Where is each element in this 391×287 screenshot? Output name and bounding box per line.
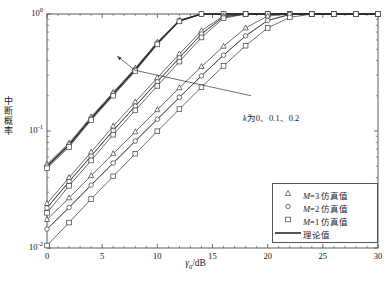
legend-label: 理论值: [303, 228, 330, 240]
x-tick-label: 20: [256, 251, 280, 261]
x-tick-label: 30: [366, 251, 390, 261]
y-tick-mantissa: 10: [31, 8, 40, 18]
x-tick-label: 5: [90, 251, 114, 261]
x-tick-label: 25: [311, 251, 335, 261]
legend-marker-square: [273, 214, 303, 227]
y-tick-exponent: -1: [38, 123, 43, 130]
legend-text: 理论值: [303, 230, 330, 240]
legend-text: =2 仿真值: [310, 204, 348, 214]
y-axis-label-char: 中: [2, 96, 14, 106]
legend-text: =1 仿真值: [310, 217, 348, 227]
x-tick-label: 0: [35, 251, 59, 261]
legend-marker-triangle: [273, 188, 303, 201]
y-tick-mantissa: 10: [29, 125, 38, 135]
chart-figure: 中断概率 γ0/dB k为0、0.1、0.2 M=3 仿真值M=2 仿真值M=1…: [0, 0, 391, 287]
chart-legend: M=3 仿真值M=2 仿真值M=1 仿真值理论值: [272, 183, 378, 243]
y-tick-exponent: 0: [40, 6, 43, 13]
legend-item: M=1 仿真值: [273, 214, 377, 227]
k-annotation: k为0、0.1、0.2: [243, 111, 299, 123]
legend-label: M=2 仿真值: [303, 202, 348, 214]
legend-item: 理论值: [273, 227, 377, 240]
legend-item: M=2 仿真值: [273, 201, 377, 214]
legend-label: M=3 仿真值: [303, 189, 348, 201]
k-values: 为0、0.1、0.2: [247, 113, 300, 123]
y-tick-label: 100: [6, 8, 43, 18]
y-axis-label-char: 断: [2, 106, 14, 116]
legend-marker-line: [273, 227, 303, 240]
y-tick-exponent: -2: [38, 240, 43, 247]
y-tick-label: 10-1: [6, 125, 43, 135]
legend-label: M=1 仿真值: [303, 215, 348, 227]
legend-text: =3 仿真值: [310, 191, 348, 201]
x-tick-label: 15: [201, 251, 225, 261]
x-tick-label: 10: [145, 251, 169, 261]
annotation-arrow: [117, 56, 251, 95]
legend-marker-circle: [273, 201, 303, 214]
legend-item: M=3 仿真值: [273, 188, 377, 201]
chart-canvas: [0, 0, 391, 287]
